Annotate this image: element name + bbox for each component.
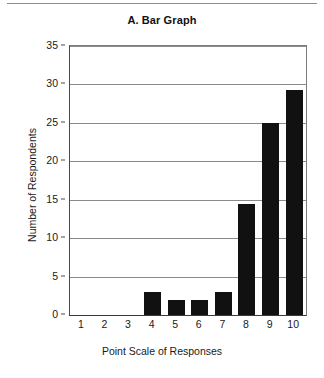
x-axis-tick-label: 9: [258, 318, 282, 330]
bar[interactable]: [286, 90, 303, 315]
y-axis-tick-mark: [61, 121, 65, 122]
y-axis-tick-label: 30: [46, 77, 58, 89]
bar-slot[interactable]: [141, 46, 165, 315]
x-axis-tick-label: 1: [69, 318, 93, 330]
x-axis-tick-label: 10: [281, 318, 305, 330]
bar-slot[interactable]: [259, 46, 283, 315]
y-axis-tick-mark: [61, 83, 65, 84]
bar[interactable]: [191, 300, 208, 315]
chart-title: A. Bar Graph: [0, 14, 324, 26]
y-axis-tick-label: 15: [46, 193, 58, 205]
bar-slot[interactable]: [94, 46, 118, 315]
bar-chart-figure: A. Bar Graph Number of Respondents 05101…: [0, 0, 324, 378]
y-axis-tick-label: 0: [52, 308, 58, 320]
y-axis-tick-mark: [61, 237, 65, 238]
y-axis-tick-mark: [61, 275, 65, 276]
bar[interactable]: [262, 123, 279, 315]
x-axis-tick-label: 3: [116, 318, 140, 330]
bar-slot[interactable]: [117, 46, 141, 315]
bars-layer: [70, 46, 306, 315]
bar[interactable]: [215, 292, 232, 315]
y-axis-tick-mark: [61, 198, 65, 199]
y-axis-tick-group: 05101520253035: [0, 45, 65, 314]
bar-slot[interactable]: [282, 46, 306, 315]
y-axis-tick-label: 35: [46, 39, 58, 51]
y-axis-tick-label: 10: [46, 231, 58, 243]
y-axis-tick-mark: [61, 45, 65, 46]
y-axis-tick-label: 25: [46, 116, 58, 128]
bar-slot[interactable]: [235, 46, 259, 315]
bar[interactable]: [168, 300, 185, 315]
bar[interactable]: [144, 292, 161, 315]
bar-slot[interactable]: [70, 46, 94, 315]
x-axis-title: Point Scale of Responses: [0, 345, 324, 357]
x-axis-tick-label: 8: [234, 318, 258, 330]
bar-slot[interactable]: [164, 46, 188, 315]
x-axis-tick-label: 2: [93, 318, 117, 330]
plot-area: [69, 45, 307, 316]
bar-slot[interactable]: [212, 46, 236, 315]
y-axis-tick-mark: [61, 160, 65, 161]
x-axis-tick-group: 12345678910: [69, 318, 305, 330]
y-axis-tick-mark: [61, 314, 65, 315]
x-axis-tick-label: 4: [140, 318, 164, 330]
bar[interactable]: [238, 204, 255, 315]
x-axis-tick-label: 6: [187, 318, 211, 330]
y-axis-tick-label: 5: [52, 270, 58, 282]
x-axis-tick-label: 7: [211, 318, 235, 330]
x-axis-tick-label: 5: [163, 318, 187, 330]
bar-slot[interactable]: [188, 46, 212, 315]
y-axis-tick-label: 20: [46, 154, 58, 166]
